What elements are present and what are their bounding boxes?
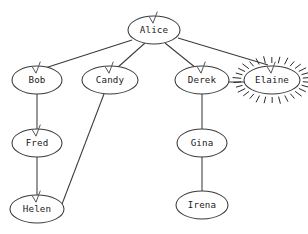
highlight-ray	[301, 73, 308, 75]
highlight-ray	[299, 68, 306, 72]
highlight-ray	[303, 82, 308, 83]
node-label: Bob	[28, 74, 45, 85]
highlight-ray	[238, 89, 245, 93]
highlight-ray	[264, 97, 266, 104]
highlight-ray	[299, 88, 306, 91]
node-label: Elaine	[255, 74, 289, 85]
highlight-ray	[236, 85, 243, 87]
node-label: Gina	[191, 137, 214, 148]
highlight-ray	[264, 56, 266, 63]
graph-edge	[45, 40, 132, 68]
highlight-ray	[238, 68, 245, 71]
node-label: Derek	[188, 74, 217, 85]
highlight-ray	[290, 61, 294, 66]
node-label: Alice	[140, 24, 168, 35]
node-label: Candy	[96, 74, 125, 85]
highlight-ray	[295, 64, 301, 69]
graph-edge	[117, 43, 145, 68]
highlight-ray	[250, 94, 254, 99]
highlight-ray	[256, 96, 259, 103]
highlight-ray	[290, 94, 294, 99]
highlight-ray	[243, 91, 249, 96]
highlight-ray	[284, 58, 287, 65]
highlight-ray	[303, 77, 308, 78]
nodes-layer: AliceBobCandyDerekElaineFredHelenGinaIre…	[10, 16, 300, 223]
highlight-ray	[236, 73, 243, 75]
graph-diagram: AliceBobCandyDerekElaineFredHelenGinaIre…	[0, 0, 308, 234]
highlight-ray	[279, 97, 281, 104]
node-label: Fred	[26, 137, 49, 148]
graph-node-gina[interactable]: Gina	[177, 129, 227, 157]
graph-canvas: AliceBobCandyDerekElaineFredHelenGinaIre…	[0, 0, 308, 234]
highlight-ray	[233, 78, 242, 79]
highlight-ray	[302, 85, 308, 87]
highlight-ray	[278, 57, 280, 64]
node-label: Helen	[23, 203, 51, 214]
graph-edge	[178, 38, 268, 65]
graph-edge	[165, 43, 196, 68]
highlight-ray	[295, 91, 301, 96]
edges-layer	[37, 38, 268, 212]
highlight-ray	[242, 64, 248, 69]
node-label: Irena	[188, 199, 216, 210]
highlight-ray	[285, 95, 288, 101]
graph-edge	[59, 94, 104, 212]
graph-node-irena[interactable]: Irena	[176, 191, 228, 219]
highlight-ray	[250, 61, 254, 66]
